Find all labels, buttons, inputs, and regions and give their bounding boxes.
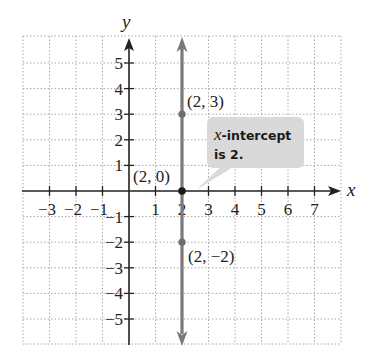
y-axis <box>124 46 134 345</box>
svg-text:2: 2 <box>115 131 124 150</box>
svg-text:5: 5 <box>115 54 124 73</box>
x-axis <box>22 186 333 196</box>
svg-text:4: 4 <box>115 80 124 99</box>
callout-line-1: x-intercept <box>213 125 291 144</box>
svg-text:1: 1 <box>151 200 160 219</box>
svg-text:−3: −3 <box>38 200 56 219</box>
svg-text:−3: −3 <box>105 259 123 278</box>
x-axis-label: x <box>346 179 356 200</box>
y-axis-label: y <box>120 11 131 32</box>
point-2-3 <box>178 111 185 118</box>
svg-text:1: 1 <box>115 156 124 175</box>
svg-text:3: 3 <box>115 105 124 124</box>
label-point-2-neg2: (2, −2) <box>188 247 234 266</box>
point-2-neg2 <box>178 239 185 246</box>
svg-text:3: 3 <box>204 200 213 219</box>
svg-text:7: 7 <box>310 200 319 219</box>
svg-text:4: 4 <box>231 200 240 219</box>
x-tick-labels: −3 −2 −1 1 2 3 4 5 6 7 <box>38 200 319 219</box>
svg-text:−4: −4 <box>105 284 124 303</box>
svg-text:6: 6 <box>284 200 293 219</box>
x-intercept-callout: x-intercept is 2. <box>196 117 304 190</box>
svg-text:−1: −1 <box>105 208 123 227</box>
label-point-2-3: (2, 3) <box>187 92 224 111</box>
svg-text:−5: −5 <box>105 310 123 329</box>
svg-text:−2: −2 <box>105 233 123 252</box>
callout-line-2: is 2. <box>214 147 244 162</box>
point-2-0 <box>178 187 186 195</box>
svg-text:5: 5 <box>257 200 266 219</box>
coordinate-plane-graph: x-intercept is 2. <box>0 0 381 358</box>
label-point-2-0: (2, 0) <box>133 167 170 186</box>
svg-text:−2: −2 <box>64 200 82 219</box>
